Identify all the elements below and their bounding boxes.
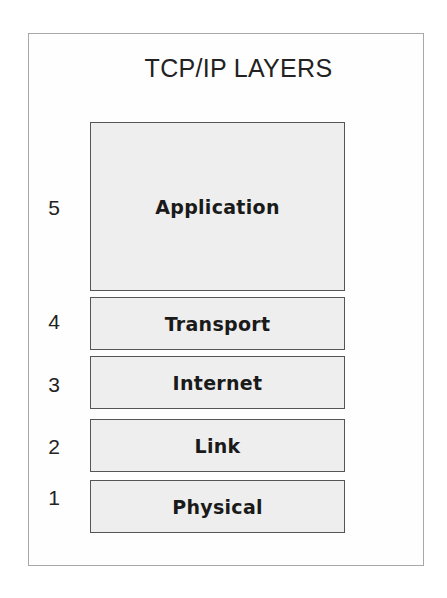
layer-number-4: 4 bbox=[44, 311, 64, 333]
layer-box-transport: Transport bbox=[90, 297, 345, 350]
layer-box-physical: Physical bbox=[90, 480, 345, 533]
layer-number-1: 1 bbox=[44, 487, 64, 509]
layer-label-application: Application bbox=[155, 196, 280, 218]
layer-number-5: 5 bbox=[44, 197, 64, 219]
layer-label-physical: Physical bbox=[172, 496, 263, 518]
layer-label-internet: Internet bbox=[173, 372, 263, 394]
layer-box-link: Link bbox=[90, 419, 345, 472]
layer-number-2: 2 bbox=[44, 436, 64, 458]
layer-label-link: Link bbox=[195, 435, 241, 457]
layer-box-application: Application bbox=[90, 122, 345, 291]
diagram-title: TCP/IP LAYERS bbox=[0, 53, 447, 83]
layer-number-3: 3 bbox=[44, 374, 64, 396]
layer-label-transport: Transport bbox=[165, 313, 271, 335]
layer-box-internet: Internet bbox=[90, 356, 345, 409]
